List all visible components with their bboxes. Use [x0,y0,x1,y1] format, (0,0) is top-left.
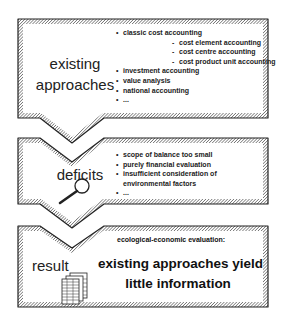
list-item: -cost element accounting [116,38,266,48]
list-item: •investment accounting [116,66,266,76]
list-item: •... [116,95,266,105]
list-item: •scope of balance too small [116,150,266,160]
list-item: -cost centre accounting [116,47,266,57]
list-item: •purely financial evaluation [116,160,266,170]
result-conclusion: existing approaches yield little informa… [98,254,258,294]
list-item: •insufficient consideration of [116,169,266,179]
conclusion-line: little information [98,274,258,294]
title-line: existing [30,55,120,72]
list-item: •... [116,188,266,198]
result-heading: ecological-economic evaluation: [117,236,225,243]
deficits-title: deficits [50,166,110,183]
list-item: •national accounting [116,86,266,96]
result-title: result [32,257,72,274]
title-line: approaches [30,76,120,93]
existing-approaches-title: existing approaches [30,55,120,93]
existing-approaches-list: •classic cost accounting -cost element a… [116,28,266,105]
list-item: •classic cost accounting [116,28,266,38]
deficits-list: •scope of balance too small •purely fina… [116,150,266,198]
list-item: -cost product unit accounting [116,57,266,67]
list-item: environmental factors [116,179,266,189]
list-item: •value analysis [116,76,266,86]
documents-icon [62,273,87,304]
conclusion-line: existing approaches yield [98,254,258,274]
